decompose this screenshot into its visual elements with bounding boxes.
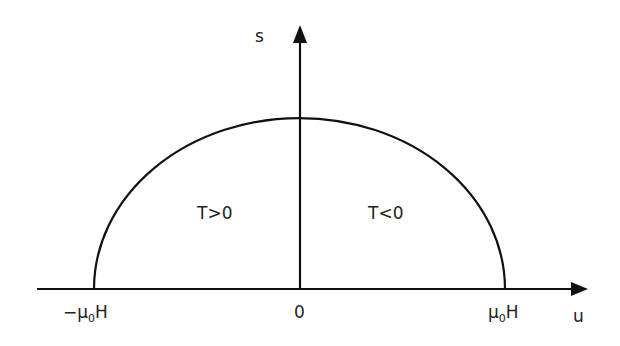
right-tick-subscript: 0 [499,312,506,325]
right-tick-suffix: H [506,302,519,322]
left-tick-prefix: −μ [63,302,88,322]
right-tick-label: μ0H [488,304,519,324]
s-axis-arrow-icon [293,25,307,43]
left-tick-subscript: 0 [88,312,95,325]
left-tick-suffix: H [95,302,108,322]
right-tick-prefix: μ [488,302,499,322]
region-right-label: T<0 [368,205,403,222]
diagram-canvas [0,0,620,346]
u-axis-label: u [573,308,584,325]
u-axis-arrow-icon [571,282,588,296]
left-tick-label: −μ0H [63,304,108,324]
s-axis-label: s [255,28,264,45]
origin-label: 0 [294,304,305,321]
region-left-label: T>0 [197,205,232,222]
